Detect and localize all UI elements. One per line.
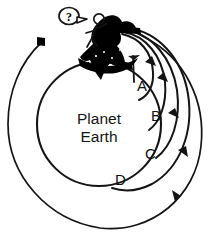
newtons-cannonball-figure: ? Planet Earth A B C D bbox=[0, 0, 218, 236]
mountain-speckle bbox=[89, 61, 91, 63]
planet-label-line2: Earth bbox=[80, 128, 117, 145]
trajectory-arrowhead-a bbox=[145, 56, 156, 66]
speech-bubble-tail bbox=[77, 17, 87, 23]
mountain-speckle bbox=[119, 49, 121, 51]
mountain-speckle bbox=[103, 51, 105, 53]
trajectory-label-a: A bbox=[137, 77, 147, 94]
speech-bubble-group: ? bbox=[59, 8, 87, 25]
outer-orbit-arrowhead bbox=[172, 190, 181, 202]
trajectory-label-d: D bbox=[115, 171, 126, 188]
mountain-speckle bbox=[111, 57, 113, 59]
figure-canvas: ? Planet Earth A B C D bbox=[0, 0, 218, 236]
speech-bubble-text: ? bbox=[66, 10, 72, 24]
trajectory-label-b: B bbox=[151, 107, 161, 124]
mountain-speckle bbox=[95, 55, 97, 57]
planet-label-line1: Planet bbox=[77, 110, 122, 127]
cannonball-projectile bbox=[37, 37, 45, 46]
cannon-barrel bbox=[118, 26, 141, 34]
trajectory-arrowhead-b bbox=[157, 72, 168, 82]
trajectory-label-c: C bbox=[145, 145, 156, 162]
trajectory-fallback-arrowhead bbox=[128, 55, 140, 60]
